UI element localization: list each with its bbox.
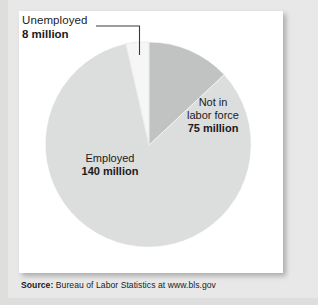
label-unemployed: Unemployed 8 million — [22, 14, 88, 41]
source-note: Source: Bureau of Labor Statistics at ww… — [21, 280, 216, 290]
figure-root: Unemployed 8 million Not in labor force … — [0, 0, 318, 305]
source-text: Bureau of Labor Statistics at www.bls.go… — [56, 280, 216, 290]
label-unemployed-name: Unemployed — [22, 14, 88, 28]
label-not-in-labor-force-name-line1: Not in — [174, 96, 252, 109]
scan-edge-left — [0, 0, 8, 305]
label-not-in-labor-force: Not in labor force 75 million — [174, 96, 252, 135]
label-unemployed-value: 8 million — [22, 28, 88, 42]
chart-card — [19, 11, 283, 273]
label-employed: Employed 140 million — [62, 152, 158, 178]
label-employed-value: 140 million — [62, 165, 158, 178]
source-label: Source: — [21, 280, 53, 290]
label-not-in-labor-force-value: 75 million — [174, 122, 252, 135]
label-not-in-labor-force-name-line2: labor force — [174, 109, 252, 122]
label-employed-name: Employed — [62, 152, 158, 165]
scan-edge-bottom — [0, 298, 318, 305]
